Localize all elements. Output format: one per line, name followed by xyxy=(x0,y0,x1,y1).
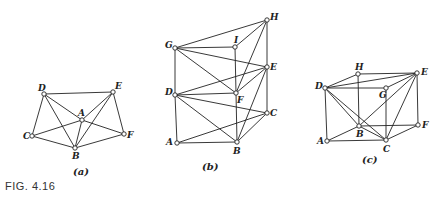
vertex-A xyxy=(325,139,329,143)
edge-A-F xyxy=(82,120,124,134)
vertex-label: D xyxy=(314,81,323,91)
edge-E-D xyxy=(175,67,267,95)
vertex-label: G xyxy=(165,40,173,50)
vertex-C xyxy=(265,111,269,115)
vertex-label: F xyxy=(421,120,429,130)
vertex-label: C xyxy=(23,131,31,141)
edge-E-A xyxy=(82,92,113,120)
vertex-label: H xyxy=(269,12,279,22)
edge-D-B xyxy=(325,88,359,126)
vertex-A xyxy=(175,141,179,145)
vertex-D xyxy=(173,93,177,97)
edge-G-E xyxy=(175,48,267,67)
vertex-label: E xyxy=(114,81,122,91)
vertex-B xyxy=(235,140,239,144)
edge-D-F xyxy=(175,93,236,95)
edge-E-C xyxy=(386,73,417,140)
vertex-B xyxy=(357,124,361,128)
edge-D-A xyxy=(44,94,82,120)
vertex-label: F xyxy=(126,130,134,140)
edge-I-F xyxy=(235,47,236,93)
edge-D-A xyxy=(325,88,327,141)
edge-H-B xyxy=(358,74,359,126)
edge-B-F xyxy=(75,134,124,148)
edge-H-F xyxy=(236,20,267,93)
vertex-label: C xyxy=(383,144,391,154)
edge-A-B xyxy=(177,142,237,143)
vertex-F xyxy=(416,123,420,127)
edge-D-A xyxy=(175,95,177,143)
edge-E-F xyxy=(113,92,124,134)
vertex-E xyxy=(415,71,419,75)
edge-D-C xyxy=(175,95,267,113)
subfigure-caption: (b) xyxy=(202,161,219,172)
graph-diagrams: DEACFB(a)HIGEDFCAB(b)HEDGBFAC(c) xyxy=(0,0,447,199)
edge-E-F xyxy=(236,67,267,93)
edge-A-B xyxy=(327,126,359,141)
vertex-label: I xyxy=(233,35,239,45)
vertex-I xyxy=(233,45,237,49)
edge-G-I xyxy=(175,47,235,48)
edge-D-B xyxy=(44,94,75,148)
edge-A-B xyxy=(75,120,82,148)
figure-label: FIG. 4.16 xyxy=(5,180,55,192)
edge-I-H xyxy=(235,20,267,47)
edge-D-C xyxy=(32,94,44,136)
vertex-C xyxy=(384,138,388,142)
edge-C-B xyxy=(32,136,75,148)
vertex-label: A xyxy=(316,136,324,146)
vertex-E xyxy=(265,65,269,69)
vertex-label: F xyxy=(236,95,244,105)
labels-layer: DEACFB(a)HIGEDFCAB(b)HEDGBFAC(c) xyxy=(23,12,429,177)
vertex-label: E xyxy=(269,62,277,72)
edge-B-F xyxy=(359,125,418,126)
vertex-label: A xyxy=(77,108,85,118)
vertex-label: B xyxy=(355,129,364,139)
edge-C-A xyxy=(32,120,82,136)
subfigure-caption: (c) xyxy=(362,154,378,165)
edge-C-B xyxy=(237,113,267,142)
vertex-label: G xyxy=(379,90,387,100)
vertex-label: B xyxy=(232,146,241,156)
vertex-H xyxy=(265,18,269,22)
edge-G-H xyxy=(175,20,267,48)
vertex-label: E xyxy=(420,67,428,77)
edge-D-B xyxy=(175,95,237,142)
vertex-H xyxy=(356,72,360,76)
vertex-G xyxy=(173,46,177,50)
vertex-label: D xyxy=(37,83,46,93)
edge-H-E xyxy=(358,73,417,74)
vertex-A xyxy=(80,118,84,122)
vertex-label: A xyxy=(165,137,173,147)
edge-E-F xyxy=(417,73,418,125)
vertex-label: H xyxy=(354,62,364,72)
vertex-C xyxy=(30,134,34,138)
vertex-label: C xyxy=(270,108,278,118)
vertex-label: D xyxy=(164,87,173,97)
subfigure-caption: (a) xyxy=(73,166,89,177)
edge-A-C xyxy=(177,113,267,143)
vertex-B xyxy=(73,146,77,150)
edge-D-H xyxy=(325,74,358,88)
edge-C-F xyxy=(386,125,418,140)
vertex-D xyxy=(323,86,327,90)
edge-D-E xyxy=(44,92,113,94)
vertex-label: B xyxy=(71,151,80,161)
vertex-F xyxy=(122,132,126,136)
edge-A-C xyxy=(327,140,386,141)
